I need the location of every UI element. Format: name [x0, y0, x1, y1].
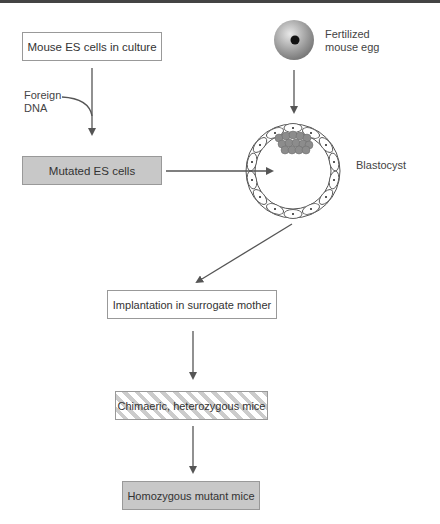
arrow-culture-to-mutated — [62, 68, 92, 134]
arrow-blastocyst-to-implantation — [197, 224, 292, 282]
label-line: Fertilized — [325, 28, 379, 41]
fertilized-egg-icon — [274, 20, 314, 60]
node-chimaeric: Chimaeric, heterozygous mice — [115, 391, 268, 420]
label-fertilized-egg: Fertilized mouse egg — [325, 28, 379, 54]
node-es-culture: Mouse ES cells in culture — [22, 32, 162, 61]
diagram-canvas — [0, 0, 440, 524]
label-line: mouse egg — [325, 41, 379, 54]
node-label: Mutated ES cells — [49, 165, 135, 177]
node-label: Mouse ES cells in culture — [27, 41, 156, 53]
node-homozygous: Homozygous mutant mice — [122, 481, 260, 510]
node-label: Homozygous mutant mice — [127, 490, 254, 502]
node-label: Chimaeric, heterozygous mice — [118, 400, 266, 412]
label-blastocyst: Blastocyst — [356, 159, 406, 172]
label-line: DNA — [24, 102, 61, 115]
label-line: Foreign — [24, 89, 61, 102]
node-implantation: Implantation in surrogate mother — [107, 290, 277, 319]
node-label: Implantation in surrogate mother — [113, 299, 271, 311]
node-mutated-es-cells: Mutated ES cells — [22, 156, 162, 185]
label-foreign-dna: Foreign DNA — [24, 89, 61, 115]
